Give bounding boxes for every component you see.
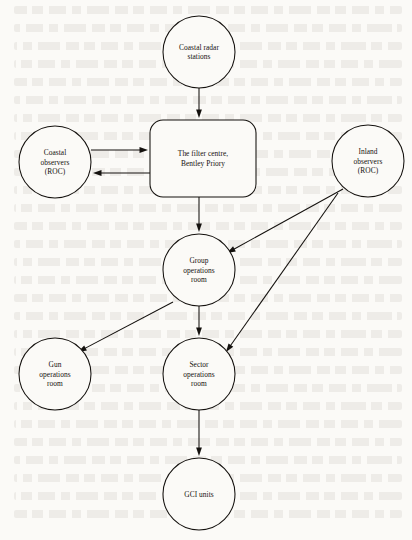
edge-line [84, 302, 173, 349]
edge-radar_to_filter [196, 88, 202, 118]
arrowhead-icon [196, 224, 202, 233]
arrowhead-icon [196, 328, 202, 337]
flowchart-canvas: Coastal radarstationsCoastalobservers(RO… [0, 0, 412, 540]
node-label: GCI units [184, 490, 213, 499]
edge-filter_to_coastal [93, 170, 150, 176]
node-gun_ops: Gunoperationsroom [19, 338, 91, 410]
edge-group_to_sector [196, 306, 202, 336]
node-label-line: operations [183, 266, 214, 275]
node-label-line: Group [189, 256, 208, 265]
node-label-line: Coastal radar [179, 43, 219, 52]
node-filter_centre: The filter centre,Bentley Priory [150, 120, 256, 197]
node-label-line: Sector [189, 360, 209, 369]
edge-line [230, 193, 338, 346]
node-label-line: operations [183, 370, 214, 379]
node-label-line: Bentley Priory [181, 159, 225, 168]
node-label-line: room [47, 379, 63, 388]
edge-inland_to_sector [226, 193, 338, 352]
edge-filter_to_group [196, 197, 202, 232]
node-label-line: Gun [49, 360, 62, 369]
node-label-line: The filter centre, [178, 149, 228, 158]
node-label-line: room [191, 379, 207, 388]
edge-line [233, 189, 343, 249]
node-label-line: stations [188, 52, 211, 61]
node-label-line: observers [41, 158, 70, 167]
node-layer: Coastal radarstationsCoastalobservers(RO… [19, 16, 404, 530]
arrowhead-icon [93, 170, 102, 176]
node-gci_units: GCI units [163, 458, 235, 530]
node-group_ops: Groupoperationsroom [163, 234, 235, 306]
node-sector_ops: Sectoroperationsroom [163, 338, 235, 410]
node-label-line: GCI units [184, 490, 213, 499]
edge-inland_to_group [227, 189, 343, 253]
edge-group_to_gun [78, 302, 173, 352]
edge-coastal_to_filter [91, 147, 148, 153]
arrowhead-icon [140, 147, 149, 153]
node-label-line: (ROC) [45, 167, 66, 176]
node-label-line: room [191, 275, 207, 284]
node-coastal_radar: Coastal radarstations [163, 16, 235, 88]
arrowhead-icon [196, 448, 202, 457]
node-label-line: observers [354, 157, 383, 166]
arrowhead-icon [196, 110, 202, 119]
diagram-page: Coastal radarstationsCoastalobservers(RO… [0, 0, 412, 540]
node-inland_obs: Inlandobservers(ROC) [332, 125, 404, 197]
node-label-line: (ROC) [358, 166, 379, 175]
node-label-line: Coastal [44, 148, 67, 157]
node-label: Coastalobservers(ROC) [41, 148, 70, 176]
node-coastal_obs: Coastalobservers(ROC) [19, 126, 91, 198]
node-label-line: operations [39, 370, 70, 379]
edge-sector_to_gci [196, 410, 202, 456]
node-label-line: Inland [358, 147, 377, 156]
node-label: The filter centre,Bentley Priory [178, 149, 228, 168]
